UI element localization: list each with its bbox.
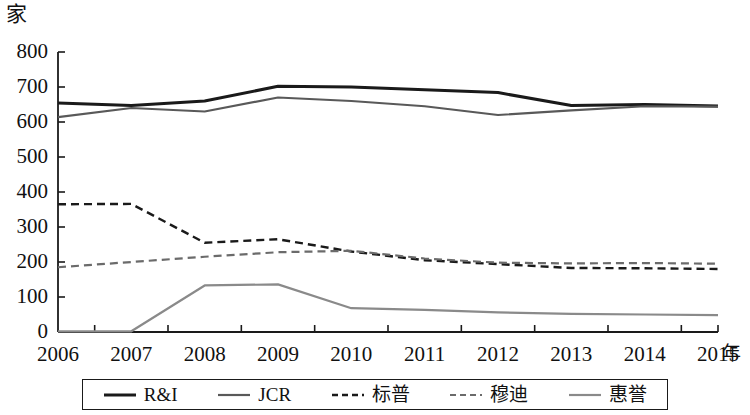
legend-swatch-icon — [331, 389, 365, 401]
legend-item-JCR: JCR — [215, 385, 293, 404]
axis-lines — [58, 52, 718, 332]
series-line-JCR — [58, 98, 718, 118]
legend-label: R&I — [144, 385, 178, 404]
series-lines — [58, 86, 718, 331]
legend-label: 穆迪 — [490, 385, 528, 404]
legend-label: 标普 — [372, 385, 410, 404]
legend-item-穆迪: 穆迪 — [447, 385, 530, 404]
legend-item-惠誉: 惠誉 — [566, 385, 649, 404]
chart-figure: 家 年 0100200300400500600700800 2006200720… — [0, 0, 750, 415]
legend-swatch-icon — [449, 389, 483, 401]
series-line-标普 — [58, 204, 718, 269]
series-line-惠誉 — [58, 284, 718, 331]
series-line-穆迪 — [58, 251, 718, 267]
legend-item-标普: 标普 — [329, 385, 412, 404]
legend-label: JCR — [258, 385, 291, 404]
chart-legend: R&IJCR标普穆迪惠誉 — [82, 379, 668, 410]
legend-label: 惠誉 — [609, 385, 647, 404]
legend-swatch-icon — [217, 389, 251, 401]
plot-area — [0, 0, 750, 415]
legend-swatch-icon — [568, 389, 602, 401]
legend-item-R&I: R&I — [101, 385, 180, 404]
legend-swatch-icon — [103, 389, 137, 401]
